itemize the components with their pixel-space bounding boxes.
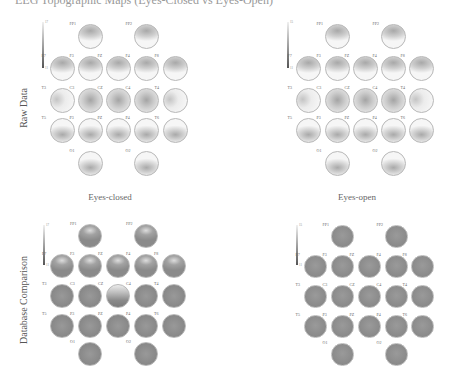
topomap-raw-eyes-open-o2: O2 xyxy=(381,151,406,176)
topomap-db-eyes-closed-fp2: FP2 xyxy=(134,224,158,248)
electrode-label: F7 xyxy=(42,54,46,58)
head-map-circle xyxy=(385,343,408,366)
head-map-circle xyxy=(50,118,75,143)
colorbar-tick-top: 17 xyxy=(45,20,48,24)
topomap-raw-eyes-open-pz: PZ xyxy=(353,118,378,143)
head-map-circle xyxy=(134,56,159,81)
topomap-raw-eyes-closed-fz: FZ xyxy=(106,56,131,81)
topomap-raw-eyes-open-t6: T6 xyxy=(409,118,434,143)
electrode-label: T5 xyxy=(42,116,46,120)
topomap-raw-eyes-open-fp1: FP1 xyxy=(325,24,350,49)
topomap-db-eyes-closed-c4: C4 xyxy=(134,284,158,308)
electrode-label: FP2 xyxy=(373,22,379,26)
electrode-label: PZ xyxy=(350,313,355,317)
electrode-label: PZ xyxy=(345,116,350,120)
electrode-label: T4 xyxy=(154,282,158,286)
head-map-circle xyxy=(134,224,158,248)
electrode-label: C4 xyxy=(126,86,131,90)
electrode-label: F7 xyxy=(288,54,292,58)
topomap-db-eyes-open-f7: F7 xyxy=(304,255,327,278)
electrode-label: O1 xyxy=(70,149,75,153)
head-map-circle xyxy=(409,118,434,143)
topomap-db-eyes-open-fp1: FP1 xyxy=(331,225,354,248)
head-map-circle xyxy=(78,151,103,176)
topomap-raw-eyes-closed-f3: F3 xyxy=(78,56,103,81)
head-map-circle xyxy=(353,88,378,113)
head-map-circle xyxy=(134,254,158,278)
electrode-label: PZ xyxy=(98,116,103,120)
electrode-label: T5 xyxy=(42,312,46,316)
head-map-circle xyxy=(106,254,130,278)
topomap-raw-eyes-open-f4: F4 xyxy=(381,56,406,81)
topomap-db-eyes-open-cz: CZ xyxy=(358,285,381,308)
electrode-label: T6 xyxy=(154,312,158,316)
electrode-label: CZ xyxy=(98,86,103,90)
topomap-db-eyes-open-f8: F8 xyxy=(411,255,434,278)
electrode-label: T4 xyxy=(401,86,405,90)
topomap-raw-eyes-open-p3: P3 xyxy=(325,118,350,143)
head-map-circle xyxy=(358,255,381,278)
colorbar-tick-top: 15 xyxy=(290,20,293,24)
head-map-circle xyxy=(163,118,188,143)
topomap-db-eyes-closed-pz: PZ xyxy=(106,314,130,338)
electrode-label: P4 xyxy=(373,116,377,120)
colorbar-tick-bottom: 11 xyxy=(45,66,48,70)
electrode-label: T3 xyxy=(42,86,46,90)
electrode-label: P3 xyxy=(70,116,74,120)
head-map-circle xyxy=(385,285,408,308)
head-map-circle xyxy=(78,314,102,338)
head-map-circle xyxy=(409,56,434,81)
topomap-raw-eyes-closed-o1: O1 xyxy=(78,151,103,176)
topomap-raw-eyes-closed-cz: CZ xyxy=(106,88,131,113)
electrode-label: P4 xyxy=(126,312,130,316)
electrode-label: T4 xyxy=(403,283,407,287)
electrode-label: F3 xyxy=(323,253,327,257)
head-map-circle xyxy=(78,342,102,366)
head-map-circle xyxy=(411,255,434,278)
topomap-raw-eyes-open-p4: P4 xyxy=(381,118,406,143)
topomap-raw-eyes-open-fp2: FP2 xyxy=(381,24,406,49)
head-map-circle xyxy=(163,88,188,113)
head-map-circle xyxy=(134,118,159,143)
head-map-circle xyxy=(162,254,186,278)
topomap-db-eyes-open-c4: C4 xyxy=(385,285,408,308)
electrode-label: P4 xyxy=(126,116,130,120)
topomap-raw-eyes-closed-pz: PZ xyxy=(106,118,131,143)
head-map-circle xyxy=(134,88,159,113)
electrode-label: C4 xyxy=(126,282,131,286)
electrode-label: T3 xyxy=(42,282,46,286)
topomap-db-eyes-open-o2: O2 xyxy=(385,343,408,366)
head-map-circle xyxy=(162,314,186,338)
head-map-circle xyxy=(353,56,378,81)
electrode-label: F3 xyxy=(70,252,74,256)
colorbar-db-eyes-closed xyxy=(43,225,45,265)
head-map-circle xyxy=(358,315,381,338)
electrode-label: O1 xyxy=(70,340,75,344)
topomap-raw-eyes-open-t4: T4 xyxy=(409,88,434,113)
head-map-circle xyxy=(296,118,321,143)
head-map-circle xyxy=(381,88,406,113)
head-map-circle xyxy=(304,315,327,338)
topomap-raw-eyes-closed-p3: P3 xyxy=(78,118,103,143)
electrode-label: C3 xyxy=(70,282,75,286)
topomap-db-eyes-closed-f4: F4 xyxy=(134,254,158,278)
topomap-raw-eyes-closed-c3: C3 xyxy=(78,88,103,113)
electrode-label: O1 xyxy=(317,149,322,153)
topomap-db-eyes-open-p4: P4 xyxy=(385,315,408,338)
electrode-label: C4 xyxy=(373,86,378,90)
topomap-db-eyes-closed-o2: O2 xyxy=(134,342,158,366)
topomap-db-eyes-open-p3: P3 xyxy=(331,315,354,338)
head-map-circle xyxy=(163,56,188,81)
head-map-circle xyxy=(50,284,74,308)
head-map-circle xyxy=(134,342,158,366)
head-map-circle xyxy=(358,285,381,308)
electrode-label: F4 xyxy=(126,54,130,58)
head-map-circle xyxy=(409,88,434,113)
head-map-circle xyxy=(385,255,408,278)
electrode-label: F4 xyxy=(373,54,377,58)
electrode-label: T6 xyxy=(155,116,159,120)
electrode-label: P4 xyxy=(377,313,381,317)
column-label-eyes-open: Eyes-open xyxy=(338,192,376,202)
head-map-circle xyxy=(134,284,158,308)
head-map-circle xyxy=(106,284,130,308)
